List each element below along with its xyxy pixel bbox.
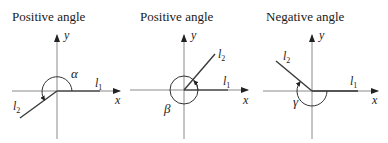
angle-label: γ: [293, 94, 299, 109]
line-l2: [276, 61, 312, 91]
l1-label: l1: [223, 74, 230, 90]
x-axis-label: x: [242, 93, 249, 107]
y-axis-label: y: [190, 28, 197, 42]
x-axis-label: x: [371, 93, 378, 107]
angle-label: α: [71, 66, 79, 81]
y-axis-label: y: [318, 28, 325, 42]
l2-label: l2: [283, 49, 290, 65]
x-axis-label: x: [114, 93, 121, 107]
panel-negative-angle-gamma: Negative angle y x γ l1 l2: [258, 0, 388, 143]
l1-label: l1: [95, 76, 102, 92]
l2-label: l2: [13, 99, 20, 115]
panel-positive-angle-alpha: Positive angle y x α l1 l2: [0, 0, 130, 143]
y-axis-label: y: [63, 28, 70, 42]
l1-label: l1: [350, 74, 357, 90]
line-l2: [184, 54, 215, 90]
panel-positive-angle-beta: Positive angle y x β l1 l2: [128, 0, 258, 143]
angle-diagram-beta: y x β l1 l2: [128, 0, 258, 143]
angle-diagram-alpha: y x α l1 l2: [0, 0, 130, 143]
line-l2: [20, 91, 57, 118]
l2-label: l2: [218, 47, 225, 63]
angle-diagram-gamma: y x γ l1 l2: [258, 0, 388, 143]
angle-label: β: [163, 101, 171, 116]
